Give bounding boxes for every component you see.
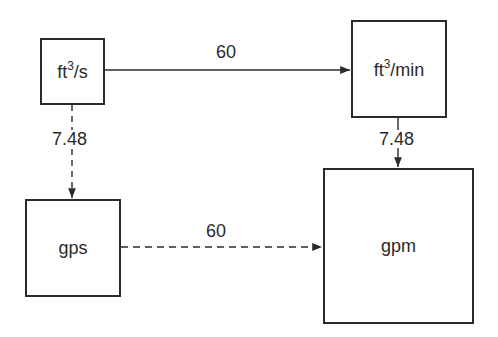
unit-suffix: /min [390,60,424,80]
conversion-diagram: ft3/s ft3/min gps gpm 60 7.48 7.48 60 [0,0,498,337]
unit-exponent: 3 [384,57,391,71]
node-ft3-per-min: ft3/min [351,20,447,118]
node-gpm: gpm [323,168,474,324]
unit-exponent: 3 [67,59,74,73]
edge-label-ft3min-gpm: 7.48 [378,130,415,148]
node-gps: gps [25,199,121,297]
node-label: gpm [381,236,416,257]
unit-suffix: /s [74,62,88,82]
unit-base: ft [57,62,67,82]
edge-label-gps-gpm: 60 [206,222,226,240]
node-label: ft3/min [374,58,425,81]
edge-label-ft3s-ft3min: 60 [216,43,236,61]
node-label: ft3/s [57,60,88,83]
unit-base: ft [374,60,384,80]
node-label: gps [58,238,87,259]
node-ft3-per-s: ft3/s [40,38,105,105]
edge-label-ft3s-gps: 7.48 [51,130,88,148]
